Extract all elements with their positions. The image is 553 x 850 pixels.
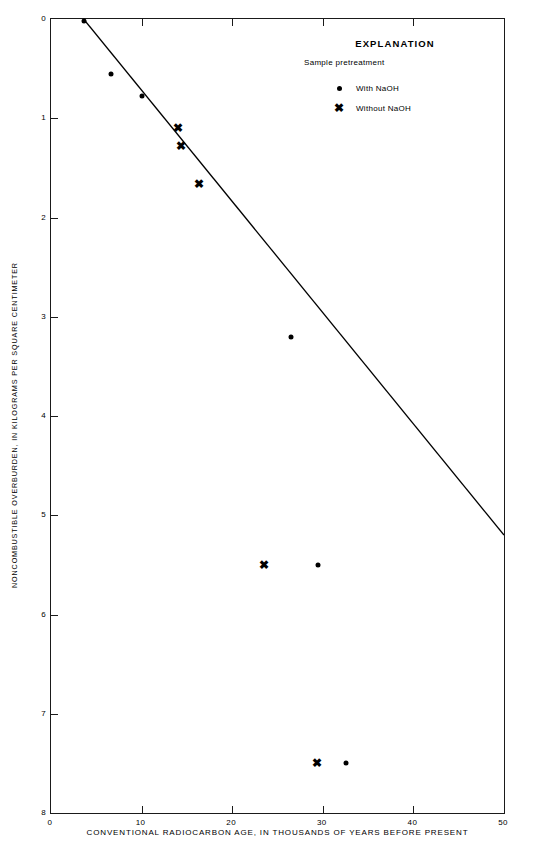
x-tick-label: 10 xyxy=(136,818,146,827)
legend-entry-label: With NaOH xyxy=(356,84,399,93)
y-tick-left xyxy=(51,317,58,318)
y-tick-left xyxy=(51,714,58,715)
legend: EXPLANATION Sample pretreatment With NaO… xyxy=(300,38,490,118)
data-point-without-naoh: ✖ xyxy=(194,179,204,189)
x-tick-label: 40 xyxy=(408,818,418,827)
x-tick-top xyxy=(232,19,233,26)
figure: NONCOMBUSTIBLE OVERBURDEN, IN KILOGRAMS … xyxy=(0,0,553,850)
data-point-with-naoh xyxy=(139,94,144,99)
data-point-with-naoh xyxy=(316,562,321,567)
x-tick-bottom xyxy=(142,806,143,813)
y-axis-title: NONCOMBUSTIBLE OVERBURDEN, IN KILOGRAMS … xyxy=(10,0,24,850)
x-tick-label: 30 xyxy=(317,818,327,827)
y-tick-label: 7 xyxy=(34,708,46,717)
y-tick-label: 2 xyxy=(34,212,46,221)
plot-area: ✖✖✖✖✖ xyxy=(50,18,505,814)
y-tick-left xyxy=(51,118,58,119)
x-tick-label: 20 xyxy=(226,818,236,827)
data-point-with-naoh xyxy=(108,71,113,76)
x-tick-bottom xyxy=(232,806,233,813)
y-tick-label: 6 xyxy=(34,609,46,618)
legend-title: EXPLANATION xyxy=(300,38,490,49)
y-tick-label: 4 xyxy=(34,411,46,420)
x-tick-top xyxy=(142,19,143,26)
x-tick-bottom xyxy=(413,806,414,813)
legend-entry-label: Without NaOH xyxy=(356,104,411,113)
data-point-with-naoh xyxy=(81,18,86,23)
data-point-without-naoh: ✖ xyxy=(176,141,186,151)
data-point-with-naoh xyxy=(344,761,349,766)
data-point-without-naoh: ✖ xyxy=(312,758,322,768)
y-axis-title-container: NONCOMBUSTIBLE OVERBURDEN, IN KILOGRAMS … xyxy=(10,0,24,850)
x-tick-top xyxy=(323,19,324,26)
y-tick-left xyxy=(51,416,58,417)
dot-marker-icon xyxy=(322,84,356,93)
legend-entry-without-naoh: ✖ Without NaOH xyxy=(300,98,490,118)
x-axis-title: CONVENTIONAL RADIOCARBON AGE, IN THOUSAN… xyxy=(50,828,505,837)
legend-entry-with-naoh: With NaOH xyxy=(300,78,490,98)
y-tick-label: 8 xyxy=(34,808,46,817)
x-tick-label: 50 xyxy=(498,818,508,827)
data-point-without-naoh: ✖ xyxy=(259,560,269,570)
y-tick-label: 5 xyxy=(34,510,46,519)
data-point-without-naoh: ✖ xyxy=(173,123,183,133)
y-tick-label: 1 xyxy=(34,113,46,122)
x-tick-bottom xyxy=(323,806,324,813)
legend-subtitle: Sample pretreatment xyxy=(300,58,490,67)
data-point-with-naoh xyxy=(289,334,294,339)
y-tick-left xyxy=(51,615,58,616)
x-tick-label: 0 xyxy=(48,818,53,827)
x-marker-icon: ✖ xyxy=(322,103,356,114)
x-tick-top xyxy=(413,19,414,26)
y-tick-left xyxy=(51,218,58,219)
y-tick-left xyxy=(51,515,58,516)
y-tick-label: 0 xyxy=(34,14,46,23)
y-tick-label: 3 xyxy=(34,311,46,320)
plot-canvas xyxy=(51,19,504,813)
